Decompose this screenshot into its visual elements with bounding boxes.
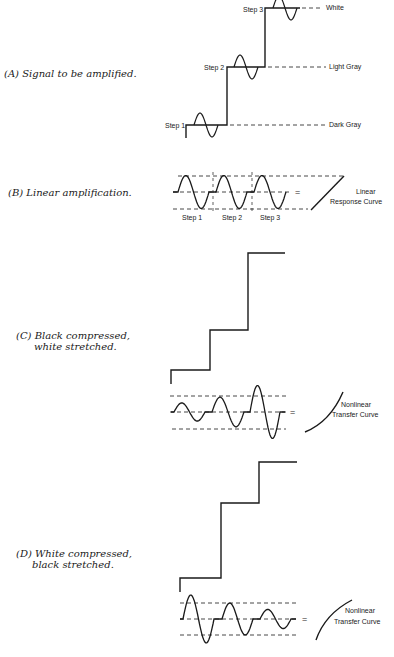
panel-a-burst-3 bbox=[273, 0, 297, 20]
panel-b-curve-label-2: Response Curve bbox=[330, 198, 382, 206]
panel-d bbox=[180, 462, 352, 643]
panel-a-step-1-label: Step 1 bbox=[165, 122, 185, 130]
panel-b bbox=[173, 172, 344, 213]
panel-c-curve-label-2: Transfer Curve bbox=[332, 411, 379, 418]
panel-c-curve-label-1: Nonlinear bbox=[341, 401, 372, 408]
panel-a-level-light-gray: Light Gray bbox=[329, 63, 362, 71]
figure-stage: (A) Signal to be amplified. (B) Linear a… bbox=[0, 0, 394, 657]
panel-c-equals: = bbox=[290, 407, 295, 417]
panel-d-staircase bbox=[180, 462, 297, 592]
diagram-svg: Step 1 Step 2 Step 3 Dark Gray Light Gra… bbox=[0, 0, 394, 657]
panel-a-step-2-label: Step 2 bbox=[204, 64, 224, 72]
panel-c bbox=[170, 253, 343, 438]
panel-c-staircase bbox=[171, 253, 285, 384]
panel-a-level-white: White bbox=[326, 4, 344, 11]
panel-b-step-2-label: Step 2 bbox=[222, 214, 242, 222]
panel-b-step-3-label: Step 3 bbox=[260, 214, 280, 222]
panel-a-step-3-label: Step 3 bbox=[243, 6, 263, 14]
panel-d-curve-label-2: Transfer Curve bbox=[334, 618, 381, 625]
panel-d-equals: = bbox=[302, 614, 307, 624]
panel-d-curve-label-1: Nonlinear bbox=[345, 607, 376, 614]
panel-b-curve-label-1: Linear bbox=[356, 188, 376, 195]
panel-c-waveform bbox=[171, 386, 285, 439]
panel-b-step-1-label: Step 1 bbox=[182, 214, 202, 222]
panel-a-level-dark-gray: Dark Gray bbox=[329, 121, 361, 129]
panel-a-staircase bbox=[186, 8, 300, 138]
panel-b-equals: = bbox=[295, 187, 300, 197]
